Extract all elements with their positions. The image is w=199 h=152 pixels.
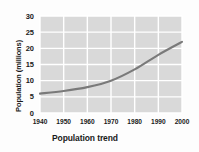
x-tick-label: 2000 bbox=[171, 118, 193, 125]
y-tick-label: 25 bbox=[20, 28, 34, 37]
x-tick-label: 1990 bbox=[147, 118, 169, 125]
x-tick-label: 1950 bbox=[53, 118, 75, 125]
x-tick-label: 1970 bbox=[100, 118, 122, 125]
y-axis-title: Population (millions) bbox=[14, 40, 23, 112]
x-tick-label: 1940 bbox=[29, 118, 51, 125]
x-tick-label: 1980 bbox=[124, 118, 146, 125]
x-axis-title: Population trend bbox=[52, 133, 118, 143]
chart-figure: 051015202530 194019501960197019801990200… bbox=[0, 0, 199, 152]
x-tick-label: 1960 bbox=[76, 118, 98, 125]
y-tick-label: 30 bbox=[20, 12, 34, 21]
